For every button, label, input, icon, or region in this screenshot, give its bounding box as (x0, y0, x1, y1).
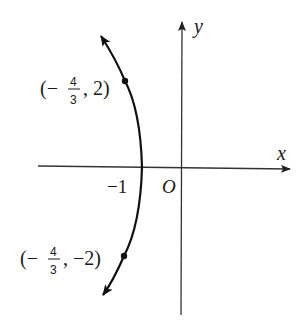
svg-text:(−: (− (20, 247, 38, 270)
lower-point-label: (− 4 3 , −2) (20, 245, 101, 277)
origin-label: O (162, 176, 176, 197)
x-axis-label: x (276, 142, 286, 164)
svg-text:, 2): , 2) (83, 77, 110, 100)
tick-label-neg1: −1 (107, 176, 127, 197)
y-axis (181, 22, 182, 315)
svg-text:4: 4 (50, 245, 57, 259)
point-lower-dot (121, 253, 127, 259)
upper-point-label: (− 4 3 , 2) (40, 75, 110, 107)
curve-upper-branch (101, 36, 142, 167)
svg-text:(−: (− (40, 77, 58, 100)
svg-text:3: 3 (70, 93, 77, 107)
svg-text:, −2): , −2) (63, 247, 101, 270)
y-axis-label: y (192, 15, 203, 38)
point-upper-dot (122, 78, 128, 84)
x-axis (38, 166, 290, 169)
diagram-canvas: y x O −1 (− 4 3 , 2) (− 4 3 , −2) (0, 0, 306, 331)
svg-text:4: 4 (70, 75, 77, 89)
svg-text:3: 3 (50, 263, 57, 277)
